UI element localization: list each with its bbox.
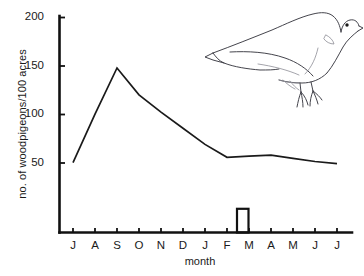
bird-eye-dot bbox=[345, 23, 348, 26]
plot-canvas bbox=[0, 0, 364, 276]
bar-breeding-february bbox=[237, 209, 249, 233]
woodpigeon-illustration bbox=[205, 13, 363, 107]
figure-woodpigeon-density: no. of woodpigeons/100 acres 200 150 100… bbox=[0, 0, 364, 276]
series-line-woodpigeon-density bbox=[73, 68, 337, 164]
caption-sliver bbox=[0, 268, 364, 276]
